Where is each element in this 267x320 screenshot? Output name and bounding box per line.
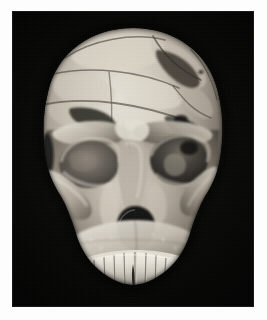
page-root: Cranial vault (frontal and parietal bone… (0, 0, 267, 320)
skull-illustration: Cranial vault (frontal and parietal bone… (13, 12, 253, 306)
photograph-plate: Cranial vault (frontal and parietal bone… (13, 12, 253, 306)
skull-specimen: Cranial vault (frontal and parietal bone… (13, 12, 253, 306)
